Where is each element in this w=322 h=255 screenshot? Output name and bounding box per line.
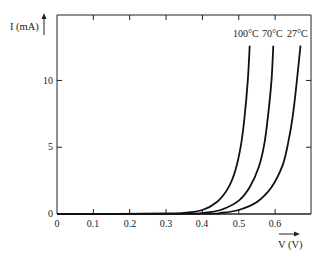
x-tick-label: 0.4: [196, 218, 209, 229]
y-tick-label: 5: [48, 141, 53, 152]
series-label-70c: 70°C: [262, 28, 283, 39]
curve-70c: [57, 46, 273, 214]
up-arrow-head-icon: [42, 13, 47, 19]
curve-100c: [57, 46, 250, 214]
x-tick-label: 0.5: [233, 218, 246, 229]
y-tick-labels: 0 5 10: [43, 75, 53, 219]
right-arrow-head-icon: [294, 232, 300, 237]
x-tick-label: 0.1: [87, 218, 100, 229]
x-tick-label: 0: [55, 218, 60, 229]
x-tick-label: 0.3: [160, 218, 173, 229]
x-tick-labels: 0 0.1 0.2 0.3 0.4 0.5 0.6: [55, 218, 282, 229]
y-axis-ticks: [57, 80, 311, 147]
y-axis-title: I (mA): [10, 13, 47, 35]
curves: [57, 46, 301, 214]
x-tick-label: 0.6: [269, 218, 282, 229]
y-axis-label: I (mA): [10, 21, 39, 33]
x-axis-title: V (V): [278, 232, 303, 252]
x-axis-label: V (V): [278, 239, 303, 251]
x-axis-ticks: [93, 15, 275, 214]
x-tick-label: 0.2: [124, 218, 137, 229]
series-label-27c: 27°C: [287, 28, 308, 39]
y-tick-label: 0: [48, 208, 53, 219]
series-label-100c: 100°C: [233, 28, 259, 39]
y-tick-label: 10: [43, 75, 53, 86]
diode-iv-chart: 0 0.1 0.2 0.3 0.4 0.5 0.6 0 5 10 I (mA) …: [0, 0, 322, 255]
series-labels: 100°C 70°C 27°C: [233, 28, 308, 39]
curve-27c: [57, 46, 301, 214]
